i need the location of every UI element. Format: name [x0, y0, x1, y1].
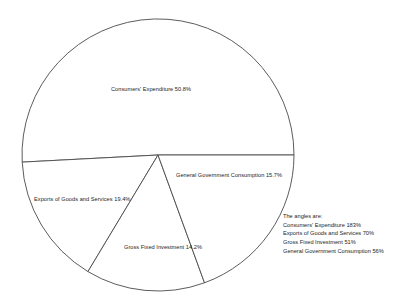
- slice-label-consumers-expenditure: Consumers' Expenditure 50.8%: [111, 86, 191, 92]
- slice-label-gross-fixed-investment: Gross Fixed Investment 14.2%: [124, 244, 202, 250]
- angle-row-general-government-consumption: General Government Consumption 56%: [283, 247, 384, 256]
- slice-label-general-government-consumption: General Government Consumption 15.7%: [176, 172, 282, 178]
- pie-slices: [22, 19, 294, 291]
- angle-row-consumers-expenditure: Consumers' Expenditure 183%: [283, 221, 384, 230]
- angle-row-gross-fixed-investment: Gross Fixed Investment 51%: [283, 238, 384, 247]
- angles-heading: The angles are:: [283, 212, 384, 221]
- angle-row-exports-of-goods-and-services: Exports of Goods and Services 70%: [283, 229, 384, 238]
- slice-label-exports-of-goods-and-services: Exports of Goods and Services 19.4%: [34, 196, 130, 202]
- pie-chart-page: Consumers' Expenditure 50.8% General Gov…: [0, 0, 398, 298]
- angles-annotation-block: The angles are: Consumers' Expenditure 1…: [283, 212, 384, 256]
